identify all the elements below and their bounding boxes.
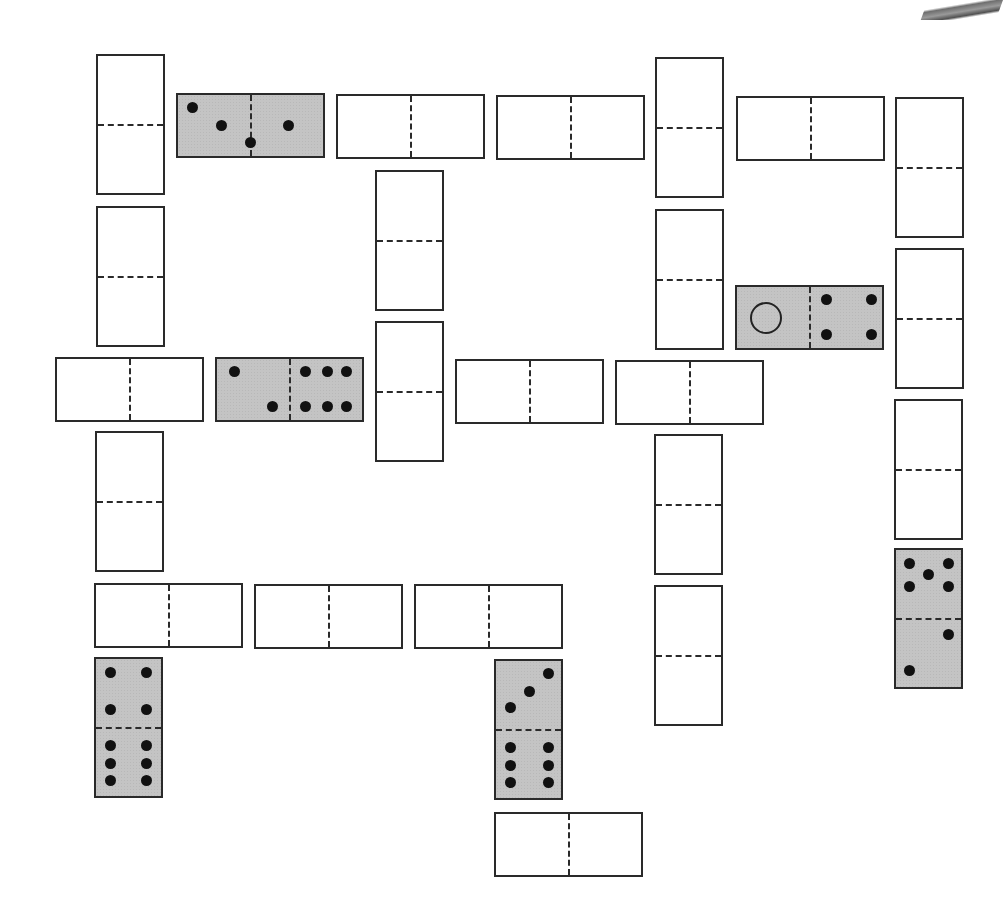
blank-circle-icon bbox=[750, 302, 782, 334]
domino-divider bbox=[897, 318, 962, 320]
pip-dot-icon bbox=[322, 366, 333, 377]
pip-dot-icon bbox=[543, 742, 554, 753]
pip-dot-icon bbox=[105, 704, 116, 715]
pip-dot-icon bbox=[105, 775, 116, 786]
domino-divider bbox=[529, 361, 531, 422]
pip-dot-icon bbox=[524, 686, 535, 697]
pip-dot-icon bbox=[821, 294, 832, 305]
domino-tile-blank[interactable] bbox=[96, 206, 165, 347]
pip-dot-icon bbox=[904, 581, 915, 592]
domino-tile-blank[interactable] bbox=[375, 321, 444, 462]
domino-divider bbox=[496, 729, 561, 731]
domino-divider bbox=[897, 167, 962, 169]
domino-divider bbox=[657, 279, 722, 281]
pip-dot-icon bbox=[505, 777, 516, 788]
domino-tile-revealed[interactable] bbox=[176, 93, 325, 158]
domino-divider bbox=[810, 98, 812, 159]
pip-dot-icon bbox=[543, 777, 554, 788]
pip-dot-icon bbox=[105, 667, 116, 678]
domino-divider bbox=[98, 276, 163, 278]
domino-tile-blank[interactable] bbox=[96, 54, 165, 195]
domino-tile-blank[interactable] bbox=[375, 170, 444, 311]
pip-dot-icon bbox=[904, 558, 915, 569]
domino-tile-revealed[interactable] bbox=[735, 285, 884, 350]
domino-tile-blank[interactable] bbox=[455, 359, 604, 424]
domino-board bbox=[0, 0, 1003, 924]
pip-dot-icon bbox=[943, 629, 954, 640]
pip-dot-icon bbox=[904, 665, 915, 676]
pip-dot-icon bbox=[300, 401, 311, 412]
pip-dot-icon bbox=[543, 760, 554, 771]
domino-tile-revealed[interactable] bbox=[894, 548, 963, 689]
pip-dot-icon bbox=[245, 137, 256, 148]
domino-divider bbox=[377, 240, 442, 242]
pip-dot-icon bbox=[943, 558, 954, 569]
pip-dot-icon bbox=[216, 120, 227, 131]
domino-divider bbox=[129, 359, 131, 420]
domino-tile-blank[interactable] bbox=[494, 812, 643, 877]
pip-dot-icon bbox=[141, 704, 152, 715]
pip-dot-icon bbox=[141, 740, 152, 751]
domino-tile-blank[interactable] bbox=[736, 96, 885, 161]
pip-dot-icon bbox=[505, 760, 516, 771]
domino-tile-blank[interactable] bbox=[95, 431, 164, 572]
domino-tile-blank[interactable] bbox=[336, 94, 485, 159]
pip-dot-icon bbox=[821, 329, 832, 340]
domino-divider bbox=[689, 362, 691, 423]
pip-dot-icon bbox=[141, 667, 152, 678]
domino-divider bbox=[97, 501, 162, 503]
pip-dot-icon bbox=[866, 294, 877, 305]
domino-tile-blank[interactable] bbox=[894, 399, 963, 540]
domino-divider bbox=[328, 586, 330, 647]
pip-dot-icon bbox=[300, 366, 311, 377]
pip-dot-icon bbox=[187, 102, 198, 113]
domino-tile-blank[interactable] bbox=[55, 357, 204, 422]
domino-divider bbox=[98, 124, 163, 126]
pip-dot-icon bbox=[543, 668, 554, 679]
domino-divider bbox=[570, 97, 572, 158]
domino-divider bbox=[656, 504, 721, 506]
domino-tile-revealed[interactable] bbox=[494, 659, 563, 800]
domino-divider bbox=[568, 814, 570, 875]
pip-dot-icon bbox=[923, 569, 934, 580]
pip-dot-icon bbox=[105, 740, 116, 751]
domino-tile-revealed[interactable] bbox=[94, 657, 163, 798]
domino-tile-blank[interactable] bbox=[895, 97, 964, 238]
pip-dot-icon bbox=[141, 758, 152, 769]
domino-tile-blank[interactable] bbox=[94, 583, 243, 648]
domino-tile-blank[interactable] bbox=[655, 57, 724, 198]
domino-divider bbox=[377, 391, 442, 393]
pip-dot-icon bbox=[505, 702, 516, 713]
domino-tile-blank[interactable] bbox=[254, 584, 403, 649]
domino-divider bbox=[289, 359, 291, 420]
domino-divider bbox=[656, 655, 721, 657]
page-corner-fragment bbox=[921, 0, 1003, 20]
pip-dot-icon bbox=[267, 401, 278, 412]
domino-tile-blank[interactable] bbox=[655, 209, 724, 350]
domino-tile-blank[interactable] bbox=[654, 585, 723, 726]
domino-divider bbox=[896, 469, 961, 471]
pip-dot-icon bbox=[505, 742, 516, 753]
domino-divider bbox=[488, 586, 490, 647]
domino-divider bbox=[410, 96, 412, 157]
pip-dot-icon bbox=[322, 401, 333, 412]
pip-dot-icon bbox=[341, 366, 352, 377]
domino-tile-blank[interactable] bbox=[654, 434, 723, 575]
pip-dot-icon bbox=[283, 120, 294, 131]
domino-tile-blank[interactable] bbox=[496, 95, 645, 160]
pip-dot-icon bbox=[229, 366, 240, 377]
domino-tile-blank[interactable] bbox=[895, 248, 964, 389]
pip-dot-icon bbox=[943, 581, 954, 592]
domino-tile-blank[interactable] bbox=[615, 360, 764, 425]
domino-divider bbox=[896, 618, 961, 620]
pip-dot-icon bbox=[141, 775, 152, 786]
domino-divider bbox=[809, 287, 811, 348]
domino-divider bbox=[96, 727, 161, 729]
domino-divider bbox=[657, 127, 722, 129]
pip-dot-icon bbox=[341, 401, 352, 412]
pip-dot-icon bbox=[105, 758, 116, 769]
domino-tile-blank[interactable] bbox=[414, 584, 563, 649]
domino-tile-revealed[interactable] bbox=[215, 357, 364, 422]
domino-divider bbox=[168, 585, 170, 646]
pip-dot-icon bbox=[866, 329, 877, 340]
